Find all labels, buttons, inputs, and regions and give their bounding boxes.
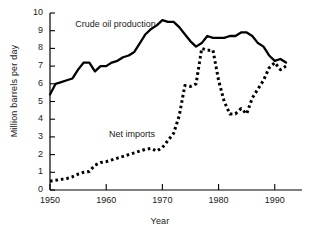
y-tick-label: 8 bbox=[29, 42, 43, 52]
x-tick-label: 1980 bbox=[204, 195, 234, 205]
x-axis-title: Year bbox=[130, 216, 190, 226]
series-line-production bbox=[50, 20, 286, 94]
x-axis-ticks bbox=[50, 184, 275, 190]
y-tick-label: 10 bbox=[29, 7, 43, 17]
chart-figure: Million barrels per day Year 01234567891… bbox=[0, 0, 314, 237]
series-label-production: Crude oil production bbox=[75, 19, 156, 29]
series-label-imports: Net imports bbox=[109, 129, 155, 139]
y-tick-label: 2 bbox=[29, 149, 43, 159]
y-tick-label: 1 bbox=[29, 166, 43, 176]
y-axis-title: Million barrels per day bbox=[9, 31, 19, 151]
axis-lines bbox=[50, 13, 302, 190]
y-tick-label: 4 bbox=[29, 113, 43, 123]
y-tick-label: 7 bbox=[29, 60, 43, 70]
y-tick-label: 9 bbox=[29, 25, 43, 35]
series-line-imports bbox=[50, 48, 286, 181]
x-tick-label: 1960 bbox=[91, 195, 121, 205]
x-tick-label: 1990 bbox=[260, 195, 290, 205]
y-tick-label: 5 bbox=[29, 96, 43, 106]
y-tick-label: 0 bbox=[29, 184, 43, 194]
y-axis-ticks bbox=[50, 13, 55, 190]
y-tick-label: 3 bbox=[29, 131, 43, 141]
y-tick-label: 6 bbox=[29, 78, 43, 88]
x-tick-label: 1970 bbox=[147, 195, 177, 205]
data-series-group bbox=[50, 20, 286, 181]
x-tick-label: 1950 bbox=[35, 195, 65, 205]
